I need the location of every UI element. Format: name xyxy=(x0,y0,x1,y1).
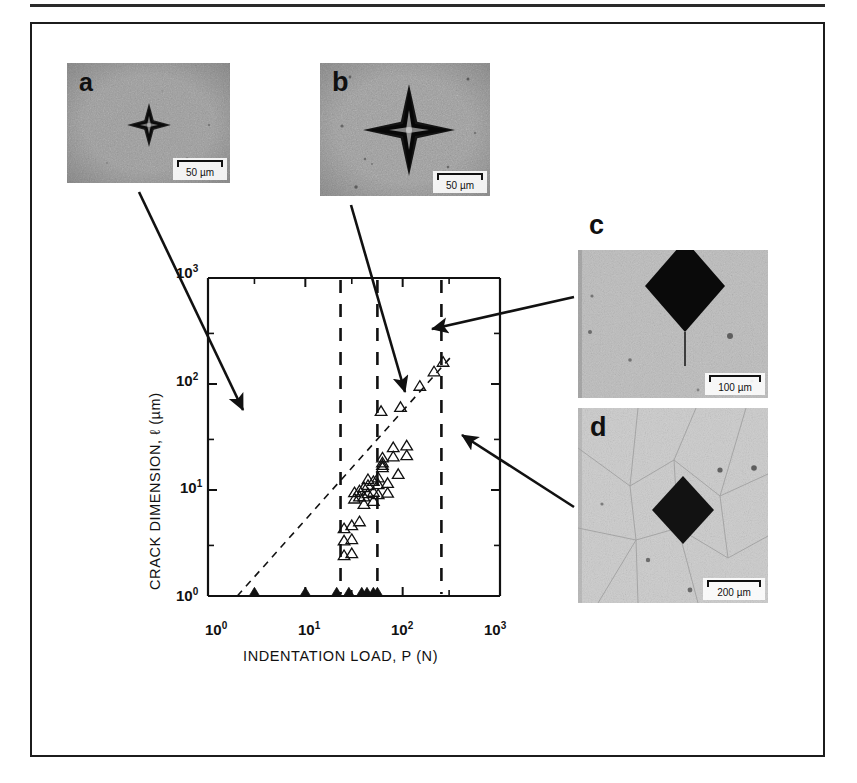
data-point-crack xyxy=(401,440,413,450)
figure-root: a 50 µm xyxy=(0,0,857,783)
panel-b-indentation xyxy=(359,80,459,180)
panel-b-scale-rule xyxy=(437,173,483,180)
panel-a-scale-label: 50 µm xyxy=(177,167,223,179)
y-tick-label-100: 102 xyxy=(176,371,198,389)
panel-a-scale-rule xyxy=(177,160,223,167)
data-point-no-crack xyxy=(249,587,259,596)
panel-c-scale-rule xyxy=(709,375,761,382)
panel-d-scale-label: 200 µm xyxy=(707,587,761,599)
x-tick-label-100: 102 xyxy=(391,620,413,638)
panel-c-indentation xyxy=(630,250,740,368)
x-tick-label-1: 100 xyxy=(205,620,227,638)
x-axis-title: INDENTATION LOAD, P (N) xyxy=(243,648,438,664)
panel-c-scale-label: 100 µm xyxy=(709,382,761,394)
micrograph-panel-a: a 50 µm xyxy=(67,63,230,183)
y-axis-title: CRACK DIMENSION, ℓ (µm) xyxy=(147,392,163,590)
micrograph-panel-b: b 50 µm xyxy=(320,63,490,196)
panel-b-letter: b xyxy=(332,69,349,96)
data-point-no-crack xyxy=(300,587,310,596)
panel-d-scale-rule xyxy=(707,580,761,587)
y-tick-label-10: 101 xyxy=(180,478,202,496)
panel-a-letter: a xyxy=(79,70,93,95)
y-tick-label-1: 100 xyxy=(176,586,198,604)
x-tick-label-1000: 103 xyxy=(484,620,506,638)
data-point-no-crack xyxy=(331,587,341,596)
micrograph-panel-d: d 200 µm xyxy=(578,408,768,603)
panel-a-scale-bar: 50 µm xyxy=(173,158,227,180)
panel-d-letter: d xyxy=(590,414,607,441)
panel-d-indentation xyxy=(644,470,722,550)
data-point-crack xyxy=(382,478,394,488)
x-tick-label-10: 101 xyxy=(298,620,320,638)
panel-a-indentation xyxy=(121,97,177,153)
panel-b-scale-label: 50 µm xyxy=(437,180,483,192)
plot-frame xyxy=(208,278,500,596)
data-point-crack xyxy=(401,450,413,460)
page-top-rule xyxy=(30,4,825,7)
data-point-crack xyxy=(392,469,404,479)
panel-c-letter-outer: c xyxy=(589,212,604,239)
panel-c-scale-bar: 100 µm xyxy=(705,373,765,395)
crack-dimension-vs-load-scatter xyxy=(178,272,508,620)
panel-d-scale-bar: 200 µm xyxy=(703,578,765,600)
y-tick-label-1000: 103 xyxy=(176,263,198,281)
data-point-crack xyxy=(414,381,426,391)
micrograph-panel-c: c 100 µm xyxy=(578,250,768,398)
data-point-crack xyxy=(387,451,399,461)
data-point-crack xyxy=(354,516,366,526)
panel-b-scale-bar: 50 µm xyxy=(433,171,487,193)
plot-area xyxy=(178,272,508,620)
